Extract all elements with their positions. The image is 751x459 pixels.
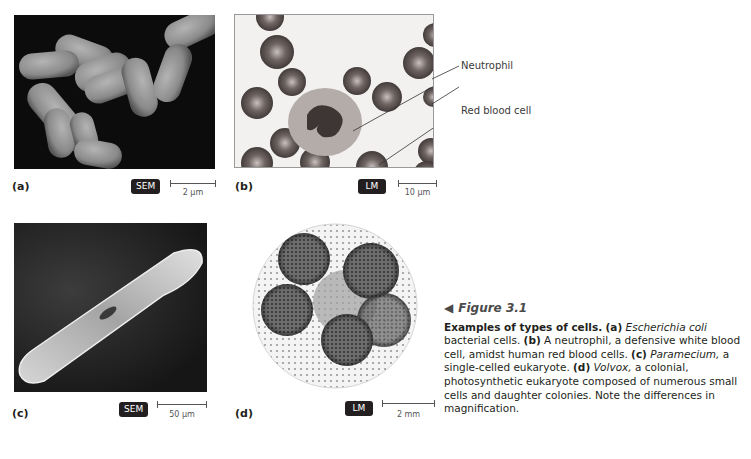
microscope-badge-c: SEM	[119, 402, 148, 417]
panel-label-d: (d)	[235, 407, 253, 420]
caption-body: Examples of types of cells. (a) Escheric…	[444, 321, 749, 416]
panel-label-a: (a)	[12, 180, 29, 193]
caption-species-a: Escherichia coli	[626, 321, 707, 333]
panel-label-c: (c)	[12, 407, 29, 420]
microscope-badge-d: LM	[345, 401, 373, 416]
callout-neutrophil: Neutrophil	[461, 60, 513, 71]
microscope-badge-b: LM	[358, 179, 386, 194]
blood-smear-image	[235, 15, 434, 168]
figure-title: ◀Figure 3.1	[444, 302, 749, 316]
scale-label-d: 2 mm	[382, 410, 435, 419]
caption-tag-a: (a)	[606, 321, 623, 333]
scale-bar-d	[382, 400, 435, 409]
scale-bar-c	[157, 401, 207, 410]
scale-label-c: 50 µm	[157, 410, 207, 419]
volvox-colony-image	[250, 222, 420, 390]
caption-species-d: Volvox,	[594, 361, 632, 373]
scale-label-a: 2 µm	[170, 188, 216, 197]
photo-paramecium-sem	[14, 223, 207, 392]
callout-lines	[432, 52, 462, 112]
microscope-badge-a: SEM	[131, 179, 160, 194]
caption-tag-c: (c)	[631, 348, 647, 360]
caption-species-c: Paramecium,	[650, 348, 719, 360]
caption-lead: Examples of types of cells.	[444, 321, 602, 333]
caption-tag-d: (d)	[573, 361, 590, 373]
paramecium-image	[14, 223, 207, 392]
panel-label-b: (b)	[235, 180, 253, 193]
figure-caption: ◀Figure 3.1 Examples of types of cells. …	[444, 302, 749, 416]
photo-volvox-lm	[250, 222, 420, 390]
figure-number: Figure 3.1	[458, 301, 527, 315]
ecoli-rods-image	[14, 15, 215, 169]
photo-ecoli-sem	[14, 15, 215, 169]
scale-label-b: 10 µm	[398, 188, 437, 197]
callout-red-blood-cell: Red blood cell	[461, 105, 531, 116]
photo-neutrophil-lm	[234, 14, 434, 168]
left-arrow-icon: ◀	[444, 301, 453, 315]
caption-tag-b: (b)	[524, 334, 541, 346]
caption-text-a: bacterial cells.	[444, 334, 524, 346]
